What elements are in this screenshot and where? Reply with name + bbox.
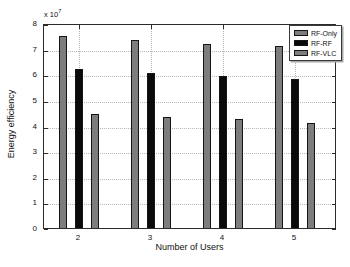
- legend: RF-OnlyRF-RFRF-VLC: [289, 25, 342, 61]
- x-tick-top: [151, 25, 152, 29]
- y-tick-right: [332, 204, 336, 205]
- x-tick-top: [79, 25, 80, 29]
- y-tick-label: 7: [21, 46, 37, 54]
- bar-rf-only-users-4: [203, 44, 211, 229]
- x-tick-label: 5: [284, 234, 304, 242]
- bar-rf-only-users-2: [59, 36, 67, 228]
- x-tick-top: [223, 25, 224, 29]
- y-tick-right: [332, 102, 336, 103]
- legend-swatch-rf-only: [294, 30, 308, 36]
- legend-entry-rf-only: RF-Only: [294, 29, 337, 37]
- bar-rf-rf-users-3: [147, 73, 155, 228]
- bar-rf-vlc-users-2: [91, 114, 99, 228]
- y-tick-left: [44, 51, 48, 52]
- y-tick-label: 3: [21, 148, 37, 156]
- legend-label-rf-rf: RF-RF: [311, 40, 332, 47]
- legend-swatch-rf-vlc: [294, 50, 308, 56]
- y-tick-right: [332, 128, 336, 129]
- y-tick-right: [332, 153, 336, 154]
- x-axis-label: Number of Users: [43, 242, 336, 252]
- y-tick-left: [44, 229, 48, 230]
- y-tick-left: [44, 76, 48, 77]
- y-tick-right: [332, 229, 336, 230]
- y-tick-left: [44, 153, 48, 154]
- y-tick-label: 6: [21, 71, 37, 79]
- bar-rf-vlc-users-5: [307, 123, 315, 228]
- y-axis-multiplier: x 107: [44, 8, 61, 19]
- y-tick-right: [332, 179, 336, 180]
- legend-entry-rf-vlc: RF-VLC: [294, 49, 337, 57]
- x-tick-label: 2: [68, 234, 88, 242]
- x-tick-label: 4: [212, 234, 232, 242]
- bar-rf-vlc-users-3: [163, 117, 171, 228]
- bar-rf-rf-users-4: [219, 76, 227, 228]
- h-gridline: [44, 76, 335, 77]
- bar-rf-rf-users-5: [291, 79, 299, 228]
- figure: x 107 Energy efficiency 012345678 2345 N…: [0, 0, 350, 267]
- y-tick-right: [332, 76, 336, 77]
- legend-entry-rf-rf: RF-RF: [294, 39, 337, 47]
- y-tick-label: 5: [21, 97, 37, 105]
- bar-rf-only-users-3: [131, 40, 139, 228]
- bar-rf-only-users-5: [275, 46, 283, 228]
- legend-label-rf-only: RF-Only: [311, 30, 337, 37]
- y-multiplier-exponent: 7: [58, 8, 61, 14]
- y-tick-label: 2: [21, 174, 37, 182]
- y-tick-left: [44, 25, 48, 26]
- bar-rf-rf-users-2: [75, 69, 83, 228]
- legend-swatch-rf-rf: [294, 40, 308, 46]
- y-tick-left: [44, 179, 48, 180]
- x-tick-label: 3: [140, 234, 160, 242]
- y-multiplier-base: x 10: [44, 10, 58, 19]
- legend-label-rf-vlc: RF-VLC: [311, 50, 336, 57]
- y-tick-label: 8: [21, 20, 37, 28]
- y-tick-left: [44, 102, 48, 103]
- bar-rf-vlc-users-4: [235, 119, 243, 228]
- y-tick-label: 4: [21, 123, 37, 131]
- y-axis-label: Energy efficiency: [6, 59, 16, 189]
- y-tick-left: [44, 128, 48, 129]
- y-tick-left: [44, 204, 48, 205]
- y-tick-label: 0: [21, 225, 37, 233]
- y-tick-label: 1: [21, 199, 37, 207]
